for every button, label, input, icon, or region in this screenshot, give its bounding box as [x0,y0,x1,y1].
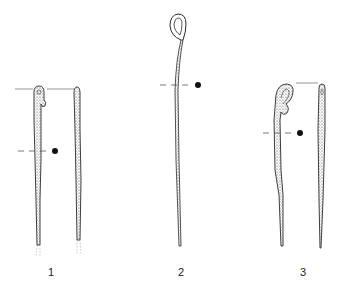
pin-1-section-dot [52,148,58,154]
pin-1-front-view [34,86,46,245]
pin-3-number-label: 3 [300,266,306,278]
pin-3-front-view [274,84,293,246]
pins-illustration [0,0,347,289]
pin-2-section-dot [195,82,201,88]
pin-3-side-view [318,84,325,248]
pin-3-section-dot [297,130,303,136]
drawing-plate: 1 2 3 [0,0,347,289]
pin-3 [263,83,325,248]
pin-1-side-view [74,87,81,240]
pin-2 [160,14,201,246]
pin-1-number-label: 1 [48,266,54,278]
pin-1 [15,86,81,256]
pin-2-number-label: 2 [178,266,184,278]
pin-2-shaft [175,40,183,246]
